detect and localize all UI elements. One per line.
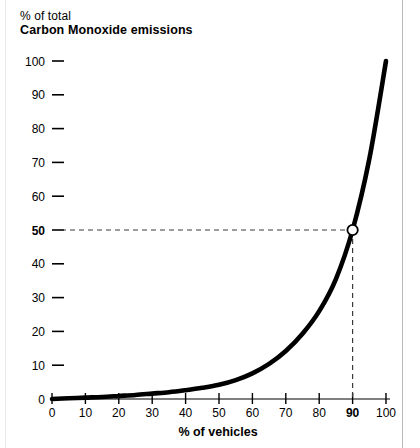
x-axis-tick-label: 60 [246,406,260,420]
y-axis-tick-label: 60 [32,190,46,204]
y-axis-tick-label: 90 [32,88,46,102]
chart-plot: 0102030405060708090100 01020304050607080… [0,0,420,448]
x-axis-tick-label: 90 [346,406,360,420]
x-axis-tick-label: 80 [313,406,327,420]
y-axis-tick-label: 10 [32,359,46,373]
x-axis-title: % of vehicles [178,425,257,439]
x-axis-tick-label: 10 [79,406,93,420]
chart-page: % of total Carbon Monoxide emissions 010… [0,0,420,448]
y-axis-tick-label: 30 [32,291,46,305]
reference-point-marker [347,225,357,235]
x-axis-tick-label: 40 [179,406,193,420]
x-axis-tick-label: 20 [112,406,126,420]
x-axis-tick-labels: 0102030405060708090100 [49,406,397,420]
y-axis-tick-label: 50 [32,224,46,238]
y-axis-tick-marks [52,61,64,365]
y-axis-tick-labels: 0102030405060708090100 [25,55,45,407]
x-axis-tick-label: 100 [376,406,396,420]
x-axis-tick-label: 0 [49,406,56,420]
y-axis-tick-label: 20 [32,325,46,339]
x-axis-tick-label: 30 [146,406,160,420]
y-axis-tick-label: 80 [32,122,46,136]
x-axis-tick-label: 70 [279,406,293,420]
y-axis-tick-label: 0 [38,393,45,407]
x-axis-tick-label: 50 [212,406,226,420]
y-axis-tick-label: 100 [25,55,45,69]
y-axis-tick-label: 40 [32,257,46,271]
y-axis-tick-label: 70 [32,156,46,170]
